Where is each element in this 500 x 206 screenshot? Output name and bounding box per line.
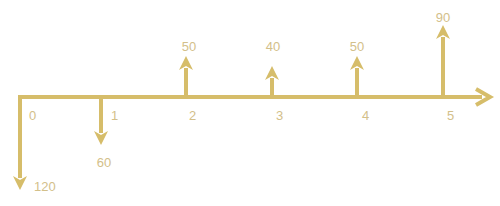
arrow-down-icon-0 xyxy=(13,176,27,190)
arrow-up-icon-4 xyxy=(350,56,364,70)
cash-flow-amount-4: 50 xyxy=(350,40,364,53)
period-label-2: 2 xyxy=(189,109,196,122)
cash-flow-amount-2: 50 xyxy=(182,40,196,53)
cash-flow-amount-5: 90 xyxy=(436,11,450,24)
cash-flow-amount-3: 40 xyxy=(266,40,280,53)
period-label-4: 4 xyxy=(362,109,369,122)
period-label-3: 3 xyxy=(276,109,283,122)
period-label-5: 5 xyxy=(447,109,454,122)
arrow-up-icon-5 xyxy=(436,25,450,39)
cash-flow-amount-1: 60 xyxy=(97,156,111,169)
cash-flow-amount-0: 120 xyxy=(34,180,56,193)
period-label-1: 1 xyxy=(111,109,118,122)
cash-flow-diagram xyxy=(0,0,500,206)
diagram-shapes xyxy=(13,25,490,190)
period-label-0: 0 xyxy=(29,109,36,122)
arrow-down-icon-1 xyxy=(94,131,108,145)
arrow-up-icon-3 xyxy=(265,66,279,80)
arrow-up-icon-2 xyxy=(179,56,193,70)
